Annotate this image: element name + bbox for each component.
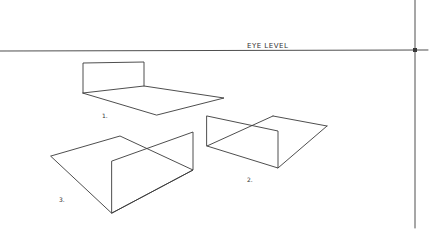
figure-2-label: 2. bbox=[247, 177, 253, 183]
drawing-lines bbox=[0, 0, 444, 229]
eye-level-label: EYE LEVEL bbox=[247, 43, 288, 50]
figure-1-shape bbox=[83, 62, 224, 115]
vanishing-point-marker bbox=[413, 48, 417, 52]
figure-1-label: 1. bbox=[102, 113, 108, 119]
figure-3-label: 3. bbox=[59, 197, 65, 203]
figure-3-shape bbox=[51, 132, 193, 213]
horizon-line bbox=[0, 50, 428, 51]
perspective-drawing: EYE LEVEL 1. 2. 3. bbox=[0, 0, 444, 229]
figure-2-shape bbox=[207, 116, 327, 168]
